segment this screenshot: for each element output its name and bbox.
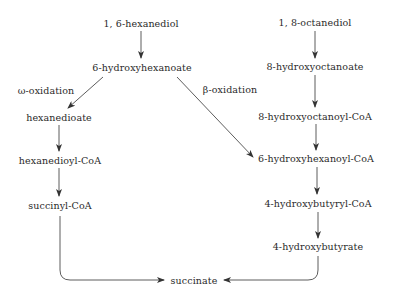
arrow-succinyl-coa-to-succinate <box>60 216 164 280</box>
node-hexanedioate: hexanedioate <box>26 112 92 123</box>
pathway-diagram: 1, 6-hexanediol 6-hydroxyhexanoate hexan… <box>0 0 393 298</box>
node-succinate: succinate <box>171 275 218 286</box>
node-succinyl-coa: succinyl-CoA <box>28 200 91 211</box>
node-4-hydroxybutyrate: 4-hydroxybutyrate <box>273 241 364 252</box>
pathway-arrows <box>0 0 393 298</box>
node-1-8-octanediol: 1, 8-octanediol <box>279 17 352 28</box>
node-8-hydroxyoctanoyl-coa: 8-hydroxyoctanoyl-CoA <box>258 111 372 122</box>
node-hexanedioyl-coa: hexanedioyl-CoA <box>19 155 101 166</box>
node-4-hydroxybutyryl-coa: 4-hydroxybutyryl-CoA <box>264 198 371 209</box>
arrow-hydroxybutyrate-to-succinate <box>224 256 318 280</box>
node-8-hydroxyoctanoate: 8-hydroxyoctanoate <box>266 61 363 72</box>
label-omega-oxidation: ω-oxidation <box>18 85 75 96</box>
node-6-hydroxyhexanoyl-coa: 6-hydroxyhexanoyl-CoA <box>258 153 374 164</box>
node-1-6-hexanediol: 1, 6-hexanediol <box>103 18 178 29</box>
label-beta-oxidation: β-oxidation <box>203 84 257 95</box>
node-6-hydroxyhexanoate: 6-hydroxyhexanoate <box>92 62 191 73</box>
